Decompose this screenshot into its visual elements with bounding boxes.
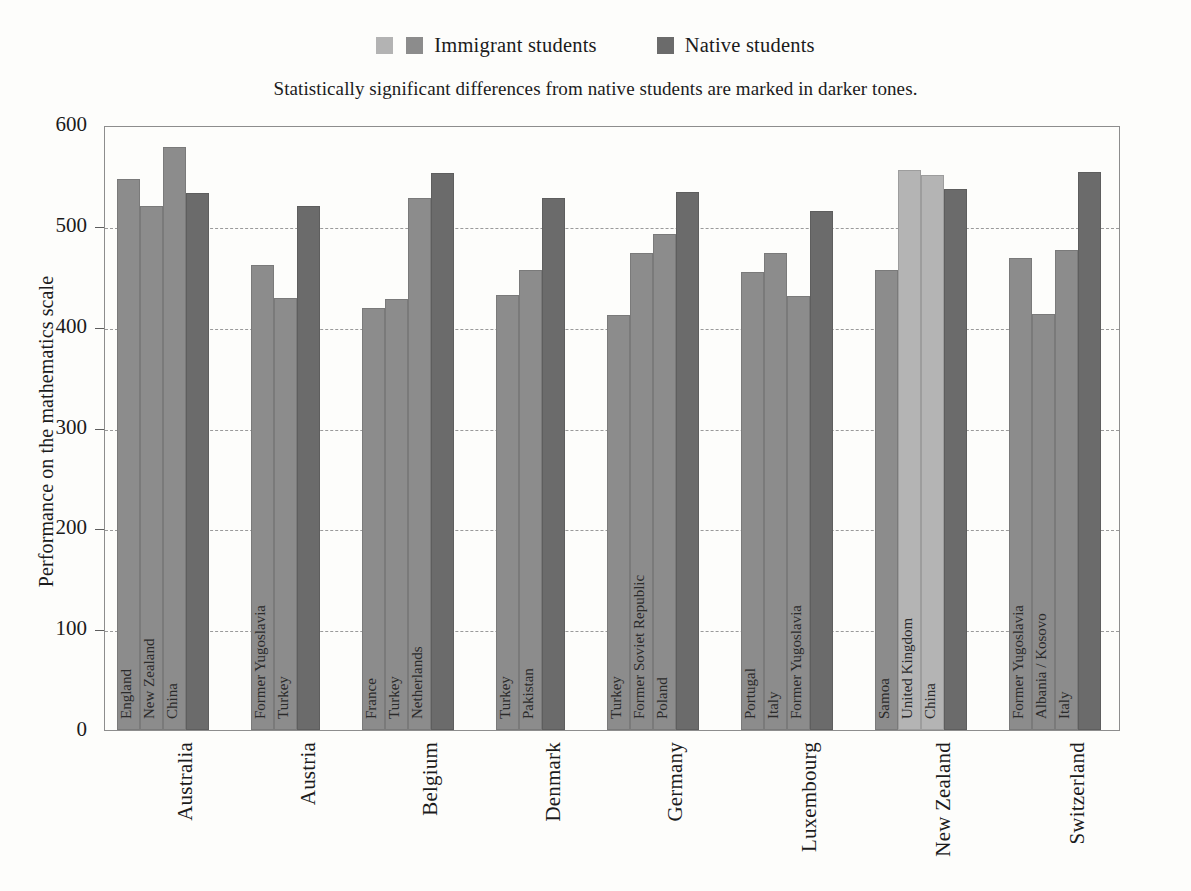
bars-layer: EnglandNew ZealandChinaFormer Yugoslavia… <box>105 127 1119 730</box>
legend-swatch-immigrant-light <box>376 37 393 54</box>
bar <box>186 193 209 730</box>
x-axis-group-label: Switzerland <box>1065 742 1090 845</box>
plot-area: EnglandNew ZealandChinaFormer Yugoslavia… <box>104 126 1120 731</box>
bar-origin-label: Turkey <box>386 676 403 719</box>
chart-subtitle: Statistically significant differences fr… <box>0 78 1191 100</box>
y-tick-mark <box>95 227 104 228</box>
legend-label-native: Native students <box>685 34 815 57</box>
y-tick-mark <box>95 328 104 329</box>
y-tick-label: 400 <box>19 314 87 339</box>
bar: Italy <box>764 253 787 730</box>
bar-origin-label: Former Yugoslavia <box>252 605 269 719</box>
bar-origin-label: Portugal <box>742 668 759 719</box>
bar: Former Yugoslavia <box>1009 258 1032 730</box>
bar: Former Soviet Republic <box>630 253 653 730</box>
bar: France <box>362 308 385 730</box>
bar-origin-label: China <box>164 683 181 719</box>
legend-label-immigrant: Immigrant students <box>434 34 596 57</box>
y-tick-label: 500 <box>19 213 87 238</box>
bar-origin-label: Italy <box>1056 692 1073 720</box>
bar-origin-label: Turkey <box>497 676 514 719</box>
chart-legend: Immigrant students Native students <box>0 34 1191 57</box>
bar: Turkey <box>607 315 630 730</box>
bar-origin-label: Netherlands <box>409 647 426 719</box>
bar: China <box>163 147 186 730</box>
bar <box>431 173 454 730</box>
x-axis-group-label: Luxembourg <box>797 742 822 852</box>
legend-swatch-native <box>657 37 674 54</box>
legend-item-native: Native students <box>657 34 815 57</box>
bar: Turkey <box>496 295 519 730</box>
bar-origin-label: China <box>922 683 939 719</box>
legend-item-immigrant: Immigrant students <box>376 34 596 57</box>
bar: Samoa <box>875 270 898 730</box>
bar: Portugal <box>741 272 764 730</box>
y-tick-label: 600 <box>19 112 87 137</box>
bar-origin-label: Former Yugoslavia <box>788 605 805 719</box>
bar-origin-label: Turkey <box>275 676 292 719</box>
bar-origin-label: United Kingdom <box>899 618 916 719</box>
bar: Italy <box>1055 250 1078 730</box>
bar <box>944 189 967 730</box>
bar: Turkey <box>385 299 408 730</box>
bar-origin-label: Pakistan <box>520 668 537 719</box>
bar-origin-label: New Zealand <box>141 639 158 719</box>
bar-origin-label: Turkey <box>608 676 625 719</box>
x-axis-group-label: Australia <box>173 742 198 821</box>
legend-swatch-immigrant-mid <box>406 37 423 54</box>
y-tick-mark <box>95 529 104 530</box>
bar <box>297 206 320 730</box>
bar-origin-label: Italy <box>765 692 782 720</box>
bar: Turkey <box>274 298 297 730</box>
bar-origin-label: Poland <box>654 677 671 719</box>
bar: Former Yugoslavia <box>787 296 810 730</box>
bar: Pakistan <box>519 270 542 730</box>
bar <box>676 192 699 730</box>
y-tick-label: 0 <box>19 717 87 742</box>
bar: Poland <box>653 234 676 730</box>
bar: China <box>921 175 944 730</box>
bar: New Zealand <box>140 206 163 730</box>
bar-origin-label: Former Yugoslavia <box>1010 605 1027 719</box>
bar: Albania / Kosovo <box>1032 314 1055 730</box>
x-axis-group-label: New Zealand <box>931 742 956 857</box>
bar-origin-label: England <box>118 669 135 719</box>
y-tick-label: 100 <box>19 616 87 641</box>
bar <box>810 211 833 730</box>
bar-origin-label: Former Soviet Republic <box>631 575 648 719</box>
x-axis-group-label: Denmark <box>541 742 566 822</box>
bar <box>542 198 565 730</box>
y-tick-label: 200 <box>19 515 87 540</box>
bar: Netherlands <box>408 198 431 730</box>
bar: England <box>117 179 140 730</box>
bar-origin-label: Albania / Kosovo <box>1033 613 1050 719</box>
y-tick-mark <box>95 429 104 430</box>
x-axis-group-label: Germany <box>663 742 688 822</box>
bar: Former Yugoslavia <box>251 265 274 730</box>
x-axis-group-label: Belgium <box>418 742 443 816</box>
y-tick-mark <box>95 630 104 631</box>
bar: United Kingdom <box>898 170 921 730</box>
bar-origin-label: Samoa <box>876 678 893 719</box>
x-axis-group-label: Austria <box>296 742 321 805</box>
bar <box>1078 172 1101 730</box>
bar-origin-label: France <box>363 678 380 719</box>
y-tick-label: 300 <box>19 415 87 440</box>
